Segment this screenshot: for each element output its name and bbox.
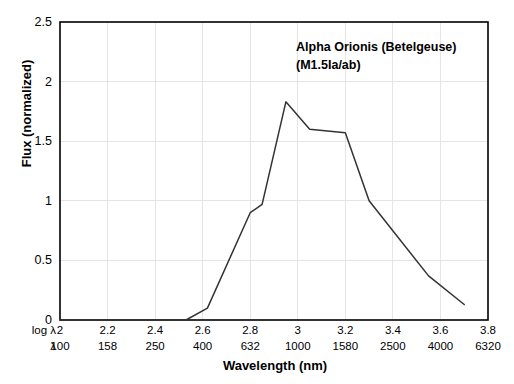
y-axis-tick-label: 1: [8, 195, 52, 208]
y-axis-tick-label: 2.5: [8, 16, 52, 29]
y-axis-tick-label: 0.5: [8, 254, 52, 267]
x-axis-key-log-lambda: log λ: [8, 325, 56, 337]
x-axis-tick-label-nm: 6320: [460, 341, 514, 353]
y-axis-title: Flux (normalized): [19, 44, 34, 184]
series-annotation: Alpha Orionis (Betelgeuse) (M1.5Ia/ab): [296, 38, 456, 74]
spectrum-chart: 00.511.522.5 22.22.42.62.833.23.43.63.8 …: [0, 0, 514, 384]
annotation-line-2: (M1.5Ia/ab): [296, 56, 456, 74]
x-axis-key-lambda: λ: [8, 341, 56, 353]
x-axis-title: Wavelength (nm): [60, 358, 490, 373]
x-axis-tick-label-log: 3.8: [460, 325, 514, 337]
flux-curve: [60, 102, 464, 320]
annotation-line-1: Alpha Orionis (Betelgeuse): [296, 38, 456, 56]
